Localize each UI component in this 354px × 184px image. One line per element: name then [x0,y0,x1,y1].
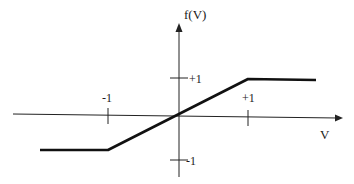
x-axis-arrow-icon [335,115,343,122]
x-axis-label: V [320,127,330,142]
y-tick-pos-label: +1 [189,72,202,86]
y-axis-arrow-icon [176,23,183,32]
x-tick-pos-label: +1 [242,91,255,105]
x-tick-neg-label: -1 [102,91,112,105]
y-tick-neg-label: -1 [186,154,196,168]
y-axis-label: f(V) [184,7,206,22]
saturation-function-chart: f(V) V -1 +1 +1 -1 [0,0,354,184]
